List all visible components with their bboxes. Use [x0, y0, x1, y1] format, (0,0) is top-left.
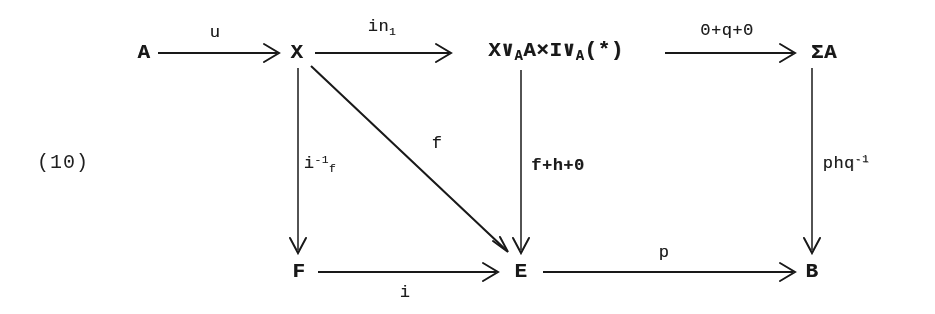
arrow-f-to-e — [318, 263, 498, 281]
label-p: p — [659, 244, 670, 261]
pushout-part-3: (*) — [585, 39, 624, 62]
arrow-x-to-middle — [315, 44, 451, 62]
label-u: u — [210, 24, 221, 41]
label-phq-superscript: -1 — [855, 153, 869, 165]
pushout-part-1: X∨ — [488, 39, 514, 62]
object-a: A — [137, 42, 150, 63]
label-i: i — [400, 284, 411, 301]
object-sigma-a: ΣA — [811, 42, 837, 63]
object-x-label: X — [290, 41, 303, 64]
object-f: F — [292, 261, 305, 282]
arrow-sigma-a-to-b — [804, 68, 820, 253]
label-zero-q-zero: 0+q+0 — [700, 22, 754, 39]
arrow-e-to-b — [543, 263, 795, 281]
arrow-middle-to-sigma-a — [665, 44, 795, 62]
label-in-1: in1 — [368, 18, 397, 38]
arrow-x-to-e-diagonal — [311, 66, 508, 252]
label-phq-inverse: phq-1 — [823, 154, 870, 171]
label-i-inverse-f: i-1f — [304, 155, 336, 175]
object-pushout: X∨AA×I∨A(*) — [488, 40, 624, 64]
label-phq-base: phq — [823, 154, 855, 173]
diagram-canvas: (10) A X X∨AA×I∨A(*) ΣA F E B u in1 0+q+… — [0, 0, 935, 314]
pushout-sub-a-1: A — [514, 48, 523, 64]
label-in-1-subscript: 1 — [389, 26, 396, 38]
label-in-1-base: in — [368, 17, 389, 36]
label-i-inverse-base: i — [304, 154, 315, 173]
object-x: X — [290, 42, 303, 63]
equation-number: (10) — [37, 153, 89, 173]
pushout-part-2: A×I∨ — [523, 39, 575, 62]
object-e: E — [514, 261, 527, 282]
arrow-middle-to-e — [513, 70, 529, 253]
label-i-inverse-superscript: -1 — [315, 154, 329, 166]
arrow-a-to-x — [158, 44, 279, 62]
label-i-inverse-subscript: f — [329, 163, 336, 175]
object-b: B — [805, 261, 818, 282]
label-f-plus-h-plus-zero: f+h+0 — [531, 157, 585, 174]
label-diagonal-f: f — [432, 135, 443, 152]
